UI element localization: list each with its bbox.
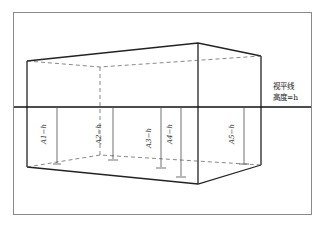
eye-line-label-2: 高度=h xyxy=(273,93,298,103)
measurement-label-2: A2−h xyxy=(95,124,103,144)
measurement-label-1: A1−h xyxy=(40,124,48,144)
measurement-label-4: A4−h xyxy=(166,124,174,144)
measurement-arrow-5 xyxy=(239,108,249,164)
measurement-arrow-1 xyxy=(53,108,61,164)
measurement-arrow-4 xyxy=(176,108,186,177)
measurement-arrow-3 xyxy=(156,108,166,168)
back-floor-edge xyxy=(27,155,261,167)
room-perspective-diagram xyxy=(0,0,331,226)
measurement-label-3: A3−h xyxy=(145,128,153,148)
measurement-arrow-2 xyxy=(108,108,118,160)
room-bottom-edge xyxy=(27,165,261,184)
eye-line-label-1: 视平线 xyxy=(273,82,294,92)
measurement-label-5: A5−h xyxy=(228,124,236,144)
